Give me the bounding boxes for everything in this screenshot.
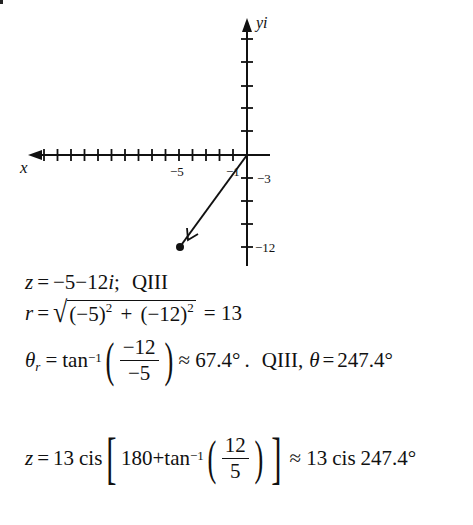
y-axis <box>241 28 253 266</box>
modulus: 13 <box>53 448 74 469</box>
fraction: 12 5 <box>222 435 249 482</box>
point-z <box>176 243 184 251</box>
y-axis-label: yi <box>254 14 268 32</box>
exponent-b: 2 <box>187 300 194 315</box>
y-axis-arrow-icon <box>242 18 252 32</box>
left-paren-icon: ( <box>105 336 114 384</box>
denominator: 5 <box>227 459 244 482</box>
term-a: (−5) <box>69 302 105 326</box>
equals-sign: = <box>37 272 49 293</box>
corner-mark <box>0 0 3 4</box>
right-paren-icon: ) <box>164 336 173 384</box>
numerator: 12 <box>222 435 249 459</box>
numerator: −12 <box>120 337 159 361</box>
complex-plane-plot: x yi −5 −1 −3 −12 <box>0 0 473 270</box>
vector-line <box>182 155 247 244</box>
theta-value: 247.4° <box>337 350 393 371</box>
var-theta: θ <box>309 350 319 371</box>
equation-polar-form: z = 13 cis [ 180+tan−1 ( 12 5 ) ] ≈ 13 c… <box>25 430 416 486</box>
y-tick-label-neg12: −12 <box>255 240 275 255</box>
reference-angle-value: ≈ 67.4° <box>179 350 241 371</box>
radicand: (−5)2 + (−12)2 <box>67 300 196 326</box>
var-z: z <box>25 448 33 469</box>
left-paren-icon: ( <box>207 434 216 482</box>
right-bracket-icon: ] <box>271 430 281 486</box>
inverse-exponent: −1 <box>88 351 102 364</box>
y-tick-label-neg3: −3 <box>257 171 271 186</box>
cis-function: cis <box>332 448 355 469</box>
modulus-result: = 13 <box>204 303 242 324</box>
right-paren-icon: ) <box>254 434 263 482</box>
cis-function: cis <box>79 448 102 469</box>
equals-sign: = <box>37 303 49 324</box>
x-tick-label-neg5: −5 <box>170 164 184 179</box>
var-r: r <box>25 303 33 324</box>
equals-sign: = <box>322 350 334 371</box>
quadrant-label: QIII <box>132 272 168 293</box>
equals-sign: = <box>37 448 49 469</box>
x-axis-label: x <box>19 158 28 177</box>
square-root: √ (−5)2 + (−12)2 <box>53 300 196 326</box>
denominator: −5 <box>125 361 153 384</box>
term-b: (−12) <box>141 302 188 326</box>
separator: ; <box>114 272 120 293</box>
left-bracket-icon: [ <box>107 430 117 486</box>
var-z: z <box>25 272 33 293</box>
z-value: −5−12 <box>53 272 108 293</box>
approx-modulus: ≈ 13 <box>289 448 327 469</box>
equation-z-rectangular: z = −5−12 i ; QIII <box>25 272 168 293</box>
var-theta: θ <box>25 350 35 371</box>
angle-value: 247.4° <box>361 448 417 469</box>
period: . <box>244 350 249 371</box>
equation-reference-angle: θr = tan−1 ( −12 −5 ) ≈ 67.4° . QIII, θ … <box>25 336 393 384</box>
plus-sign: + <box>120 302 132 326</box>
equation-modulus: r = √ (−5)2 + (−12)2 = 13 <box>25 300 242 326</box>
inverse-exponent: −1 <box>190 449 204 462</box>
radical-icon: √ <box>53 298 67 328</box>
quadrant-label: QIII, <box>262 350 303 371</box>
exponent-a: 2 <box>106 300 113 315</box>
subscript-r: r <box>35 360 40 373</box>
function-tan: tan <box>62 350 88 371</box>
equals-sign: = <box>45 350 57 371</box>
angle-expression: 180+tan <box>121 448 190 469</box>
x-axis-arrow-icon <box>28 150 42 160</box>
fraction: −12 −5 <box>120 337 159 384</box>
x-axis <box>38 149 270 161</box>
